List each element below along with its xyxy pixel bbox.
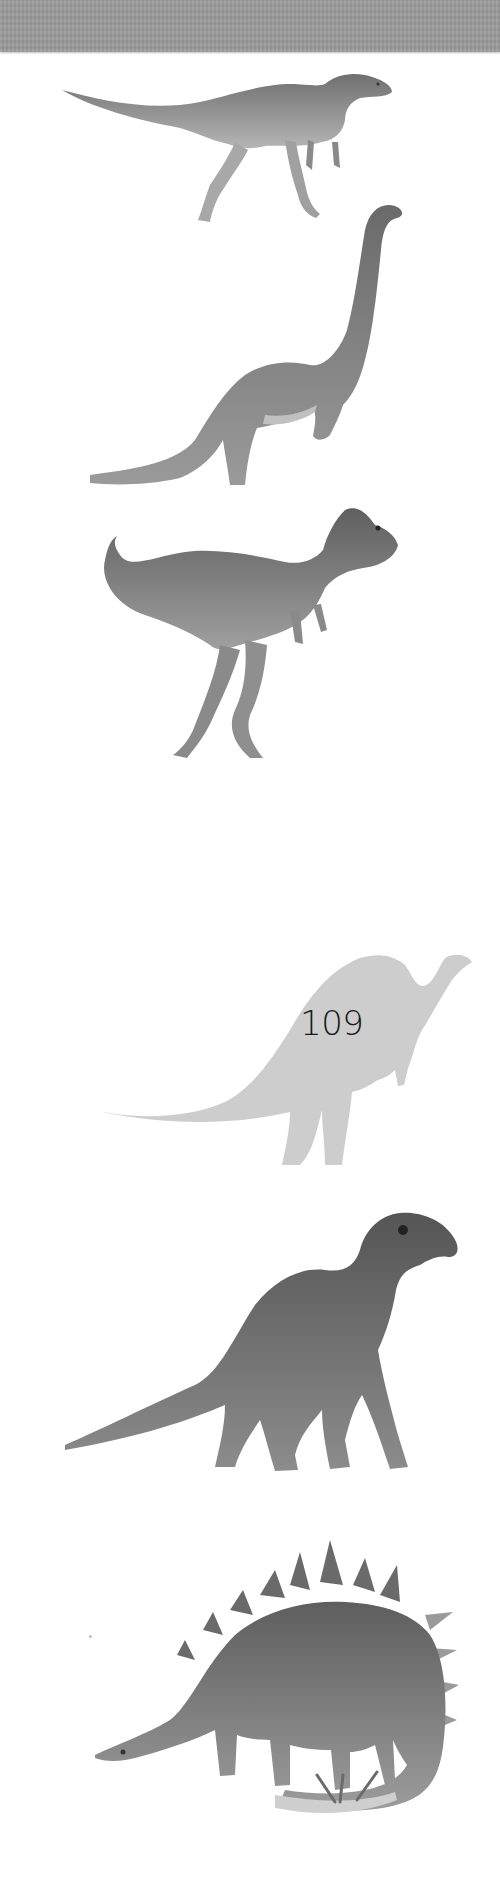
iguanodont-figure [60,1205,480,1485]
long-necked-sauropod-icon [85,200,405,490]
horned-theropod-icon [95,500,405,770]
spiked-stegosaur-icon [95,1540,475,1830]
page-number: 109 [300,1003,363,1043]
sail-backed-silhouette-figure [60,950,480,1180]
horned-theropod-figure [95,500,405,770]
spiked-stegosaur-figure [95,1540,475,1830]
long-necked-sauropod-figure [85,200,405,490]
sail-backed-silhouette-icon [60,950,480,1180]
scan-speck [89,1635,92,1638]
top-band [0,0,500,52]
iguanodont-icon [60,1205,480,1485]
